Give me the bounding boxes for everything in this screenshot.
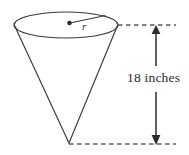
height-dimension-label: 18 inches bbox=[127, 71, 180, 85]
cone-slant-sides bbox=[15, 26, 118, 144]
center-point-dot bbox=[67, 21, 72, 26]
radius-line bbox=[70, 16, 106, 24]
dimension-arrow-up-icon bbox=[152, 25, 161, 34]
cone-figure: r 18 inches bbox=[0, 0, 189, 155]
radius-label: r bbox=[82, 21, 86, 32]
